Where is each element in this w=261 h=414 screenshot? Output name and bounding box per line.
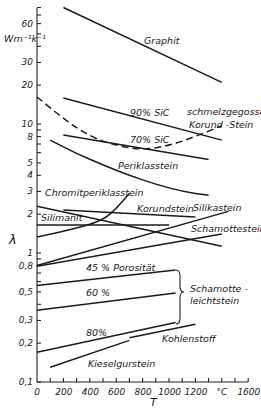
label-silika: Silikastein bbox=[193, 202, 241, 213]
label-p45: 45 % Porosität bbox=[86, 262, 157, 273]
y-tick-label: 10 bbox=[22, 119, 34, 129]
brace bbox=[176, 270, 184, 324]
x-tick-label: 600 bbox=[108, 387, 125, 397]
y-tick-label: 3 bbox=[27, 186, 33, 196]
label-korund: Korundstein bbox=[137, 203, 194, 214]
label-p80: 80% bbox=[86, 327, 107, 338]
label-sic70: 70% SiC bbox=[130, 134, 170, 145]
y-tick-label: 0,5 bbox=[19, 287, 34, 297]
y-tick-label: 0,2 bbox=[19, 338, 34, 348]
label-leicht-1: Schamotte - bbox=[190, 283, 248, 294]
x-tick-label: 200 bbox=[55, 387, 72, 397]
label-schmelz-2: Korund -Stein bbox=[189, 119, 253, 130]
x-tick-label: 400 bbox=[82, 387, 99, 397]
label-chromit: Chromitperiklasstein bbox=[45, 187, 144, 198]
y-tick-label: 60 bbox=[22, 19, 34, 29]
y-tick-label: 8 bbox=[27, 132, 33, 142]
label-schamotte: Schamottestein bbox=[191, 223, 261, 234]
y-tick-label: 1 bbox=[27, 248, 33, 258]
y-tick-label: 0,1 bbox=[19, 377, 33, 387]
label-silimanit: Silimanit bbox=[41, 212, 84, 223]
y-tick-label: 2 bbox=[27, 209, 33, 219]
x-tick-label: 1000 bbox=[158, 387, 181, 397]
series-line bbox=[63, 8, 221, 83]
x-tick-label: 0 bbox=[34, 387, 40, 397]
y-unit-label: Wm⁻¹k⁻¹ bbox=[4, 33, 46, 44]
y-tick-label: 0,8 bbox=[19, 261, 34, 271]
label-kiesel: Kieselgurstein bbox=[88, 358, 155, 369]
x-tick-label: 1600 bbox=[237, 387, 260, 397]
y-tick-label: 20 bbox=[22, 80, 34, 90]
label-kohle: Kohlenstoff bbox=[162, 333, 217, 344]
label-leicht-2: leichtstein bbox=[190, 295, 239, 306]
label-schmelz-1: schmelzgegossener bbox=[187, 106, 261, 117]
x-tick-label: 1200 bbox=[185, 387, 208, 397]
label-periklas: Periklasstein bbox=[118, 160, 178, 171]
y-tick-label: 5 bbox=[27, 158, 33, 168]
y-tick-label: 30 bbox=[22, 57, 34, 67]
x-axis-label: T bbox=[150, 396, 158, 409]
y-tick-label: 0,3 bbox=[19, 315, 34, 325]
x-tick-label: °C bbox=[216, 387, 228, 397]
label-graphit: Graphit bbox=[144, 35, 181, 46]
y-tick-label: 4 bbox=[27, 170, 33, 180]
label-p60: 60 % bbox=[86, 287, 110, 298]
thermal-conductivity-chart: 020040060080010001200°C16006030201085432… bbox=[0, 0, 261, 414]
label-sic90: 90% SiC bbox=[130, 107, 170, 118]
y-axis-label: λ bbox=[8, 232, 17, 247]
